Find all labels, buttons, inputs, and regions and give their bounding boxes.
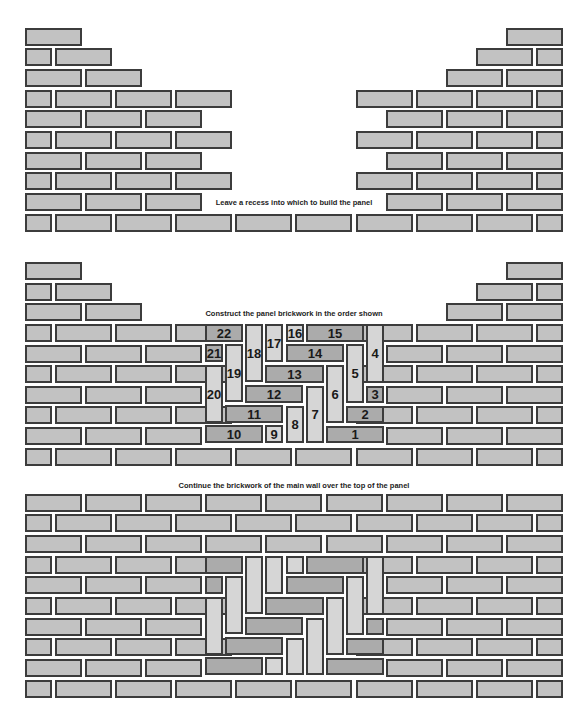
wall-brick	[506, 28, 563, 46]
wall-brick	[115, 556, 172, 574]
wall-brick	[416, 365, 473, 383]
wall-brick	[536, 283, 563, 301]
wall-brick	[356, 90, 413, 108]
wall-brick	[85, 110, 142, 128]
wall-brick	[416, 406, 473, 424]
wall-brick	[476, 214, 533, 232]
panel-brick-3: 3	[366, 386, 384, 403]
wall-brick	[446, 618, 503, 636]
panel-brick-6	[326, 597, 344, 655]
wall-brick	[326, 494, 383, 512]
wall-brick	[235, 514, 292, 532]
wall-brick	[416, 90, 473, 108]
wall-brick	[145, 345, 202, 363]
wall-brick	[115, 514, 172, 532]
wall-brick	[25, 48, 52, 66]
wall-brick	[175, 365, 232, 383]
wall-brick	[536, 48, 563, 66]
wall-brick	[416, 324, 473, 342]
wall-brick	[386, 618, 443, 636]
panel-brick-15: 15	[306, 324, 364, 342]
panel-brick-19	[225, 576, 243, 634]
wall-brick	[536, 556, 563, 574]
wall-brick	[386, 535, 443, 553]
wall-brick	[476, 514, 533, 532]
wall-brick	[25, 172, 52, 190]
wall-brick	[115, 172, 172, 190]
wall-brick	[115, 597, 172, 615]
panel-brick-20	[205, 597, 223, 655]
wall-brick	[115, 131, 172, 149]
wall-brick	[536, 406, 563, 424]
wall-brick	[536, 365, 563, 383]
wall-brick	[506, 535, 563, 553]
wall-brick	[55, 556, 112, 574]
panel-brick-16: 16	[286, 324, 304, 342]
wall-brick	[265, 494, 322, 512]
wall-brick	[476, 556, 533, 574]
panel-brick-10	[205, 657, 263, 675]
wall-brick	[115, 680, 172, 698]
wall-brick	[416, 556, 473, 574]
wall-brick	[175, 90, 232, 108]
wall-brick	[356, 214, 413, 232]
wall-brick	[25, 427, 82, 445]
wall-brick	[506, 659, 563, 677]
wall-brick	[446, 576, 503, 594]
panel-brick-21	[205, 576, 223, 594]
panel-brick-3	[366, 618, 384, 635]
wall-brick	[25, 324, 52, 342]
wall-brick	[145, 193, 202, 211]
wall-brick	[115, 90, 172, 108]
caption-continue-brickwork: Continue the brickwork of the main wall …	[179, 481, 410, 490]
wall-brick	[386, 193, 443, 211]
panel-brick-10: 10	[205, 425, 263, 443]
wall-brick	[55, 131, 112, 149]
wall-brick	[115, 448, 172, 466]
panel-brick-11	[225, 637, 283, 655]
wall-brick	[446, 427, 503, 445]
wall-brick	[145, 152, 202, 170]
wall-brick	[476, 90, 533, 108]
panel-brick-1	[326, 658, 384, 675]
wall-brick	[25, 406, 52, 424]
wall-brick	[175, 214, 232, 232]
panel-brick-2	[346, 638, 384, 655]
wall-brick	[446, 494, 503, 512]
wall-brick	[386, 576, 443, 594]
panel-brick-20: 20	[205, 365, 223, 423]
wall-brick	[386, 494, 443, 512]
wall-brick	[55, 214, 112, 232]
panel-brick-19: 19	[225, 344, 243, 402]
panel-brick-18: 18	[245, 324, 263, 382]
wall-brick	[85, 535, 142, 553]
wall-brick	[536, 514, 563, 532]
wall-brick	[356, 597, 413, 615]
wall-brick	[25, 110, 82, 128]
wall-brick	[55, 324, 112, 342]
panel-brick-7	[306, 618, 324, 675]
wall-brick	[25, 535, 82, 553]
panel-brick-9	[265, 657, 283, 675]
panel-brick-17: 17	[265, 324, 283, 362]
wall-brick	[476, 638, 533, 656]
wall-brick	[25, 262, 82, 280]
wall-brick	[476, 680, 533, 698]
wall-brick	[446, 345, 503, 363]
wall-brick	[235, 214, 292, 232]
wall-brick	[85, 193, 142, 211]
panel-brick-5	[346, 576, 364, 635]
wall-brick	[356, 172, 413, 190]
wall-brick	[145, 576, 202, 594]
wall-brick	[536, 214, 563, 232]
wall-brick	[386, 386, 443, 404]
caption-leave-recess: Leave a recess into which to build the p…	[216, 198, 373, 207]
wall-brick	[205, 494, 262, 512]
wall-brick	[446, 535, 503, 553]
wall-brick	[85, 152, 142, 170]
wall-brick	[25, 214, 52, 232]
panel-brick-13: 13	[265, 365, 324, 383]
wall-brick	[506, 69, 563, 87]
panel-brick-22: 22	[205, 324, 243, 342]
wall-brick	[416, 680, 473, 698]
